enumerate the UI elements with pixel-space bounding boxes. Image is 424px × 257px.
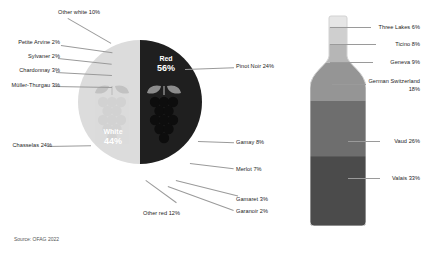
bottle-label-geneva: Geneva 9% xyxy=(362,59,420,66)
pie-label-pinot-noir: Pinot Noir 24% xyxy=(236,63,274,70)
leader-line-other-red xyxy=(146,180,177,203)
pie-label-other-white: Other white 10% xyxy=(58,9,136,16)
bottle-label-ticino: Ticino 8% xyxy=(362,41,420,48)
bottle-segment-geneva xyxy=(310,44,366,63)
pie-center-value-white: 44% xyxy=(92,137,134,146)
leader-line-merlot xyxy=(190,163,234,169)
pie-center-name-red: Red xyxy=(159,55,172,62)
bottle-label-valais: Valais 33% xyxy=(362,175,420,182)
pie-label-garanoir: Garanoir 2% xyxy=(236,208,268,215)
bottle-label-three-lakes: Three Lakes 6% xyxy=(362,24,420,31)
grape-colour-pie-chart: Red 56% White 44% xyxy=(78,40,202,164)
pie-label-other-red: Other red 12% xyxy=(143,210,180,217)
bottle-segment-vaud xyxy=(310,101,366,156)
pie-label-chasselas: Chasselas 24% xyxy=(0,142,52,149)
leader-line-gamaret xyxy=(176,180,238,196)
pie-label-muller-thurgau: Müller-Thurgau 3% xyxy=(0,82,60,89)
pie-label-merlot: Merlot 7% xyxy=(236,166,262,173)
pie-label-petite-arvine: Petite Arvine 2% xyxy=(0,39,60,46)
source-note: Source: OFAG 2022 xyxy=(14,236,59,242)
bottle-segment-valais xyxy=(310,156,366,226)
pie-label-gamaret: Gamaret 3% xyxy=(236,196,268,203)
bottle-label-german-switzerland: German Switzerland 18% xyxy=(356,78,420,93)
pie-label-chardonnay: Chardonnay 3% xyxy=(0,67,60,74)
bottle-svg xyxy=(310,14,366,226)
pie-center-label-red: Red 56% xyxy=(144,55,188,72)
pie-center-label-white: White 44% xyxy=(92,128,134,145)
pie-center-name-white: White xyxy=(103,128,122,135)
bottle-segment-ticino xyxy=(310,27,366,44)
bottle-label-vaud: Vaud 26% xyxy=(362,138,420,145)
bottle-segments xyxy=(310,14,366,226)
pie-label-gamay: Gamay 8% xyxy=(236,139,264,146)
leader-line-garanoir xyxy=(168,186,234,210)
pie-label-sylvaner: Sylvaner 2% xyxy=(0,53,60,60)
pie-center-value-red: 56% xyxy=(144,64,188,73)
leader-line-gamay xyxy=(198,141,234,143)
region-bottle-chart xyxy=(310,14,366,226)
infographic-canvas: Red 56% White 44% Other white 10% Petite… xyxy=(0,0,424,257)
